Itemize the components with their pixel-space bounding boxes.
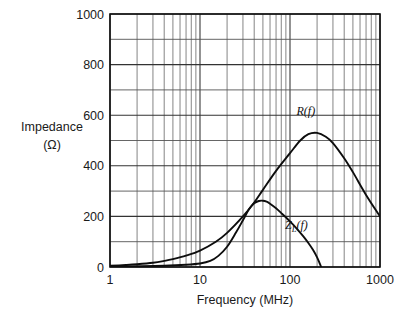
x-tick-label: 1000 xyxy=(366,273,394,287)
y-tick-label: 1000 xyxy=(76,8,104,22)
x-tick-label: 10 xyxy=(193,273,207,287)
x-axis-title: Frequency (MHz) xyxy=(197,293,294,307)
y-tick-label: 0 xyxy=(97,261,104,275)
y-tick-label: 600 xyxy=(83,109,104,123)
x-tick-label: 100 xyxy=(280,273,301,287)
impedance-frequency-chart: 1101001000 02004006008001000 Impedance (… xyxy=(0,0,400,323)
y-tick-label: 400 xyxy=(83,159,104,173)
y-tick-label: 200 xyxy=(83,210,104,224)
y-tick-label: 800 xyxy=(83,58,104,72)
curve-label-r-of-f: R(f) xyxy=(296,104,316,118)
y-axis-title-line1: Impedance xyxy=(21,120,83,134)
chart-figure: 1101001000 02004006008001000 Impedance (… xyxy=(0,0,400,323)
curve-label-zl-of-f: ZL(f) xyxy=(285,218,308,234)
y-axis-title-line2: (Ω) xyxy=(43,138,61,152)
x-tick-label: 1 xyxy=(107,273,114,287)
